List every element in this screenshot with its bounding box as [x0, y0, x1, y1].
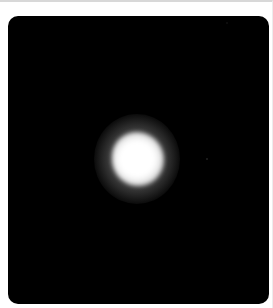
image-card [0, 0, 273, 308]
image-viewer[interactable] [8, 16, 269, 304]
noise-speck [206, 158, 208, 160]
bright-spot [112, 132, 164, 186]
noise-speck [226, 22, 228, 24]
